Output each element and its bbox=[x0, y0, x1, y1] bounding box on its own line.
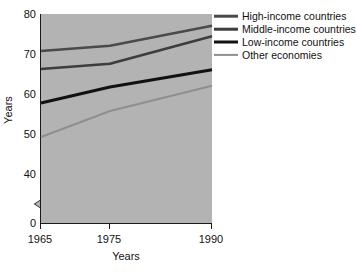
legend-line-3 bbox=[214, 54, 238, 56]
legend-line-0 bbox=[214, 15, 238, 18]
y-tick-label-50: 50 bbox=[24, 129, 36, 140]
legend-label-middle-income: Middle-income countries bbox=[238, 23, 356, 35]
legend-item-other-economies: Other economies bbox=[214, 49, 356, 61]
legend-swatch-high-income bbox=[214, 10, 238, 22]
legend-label-low-income: Low-income countries bbox=[238, 36, 344, 48]
legend-swatch-low-income bbox=[214, 36, 238, 48]
x-tick-mark-1965 bbox=[40, 224, 41, 229]
legend-swatch-middle-income bbox=[214, 23, 238, 35]
series-line-low-income-countries bbox=[41, 70, 212, 103]
plot-area bbox=[40, 14, 212, 224]
y-axis-title: Years bbox=[2, 80, 14, 140]
y-tick-label-70: 70 bbox=[24, 49, 36, 60]
legend: High-income countries Middle-income coun… bbox=[214, 10, 356, 62]
legend-item-middle-income: Middle-income countries bbox=[214, 23, 356, 35]
x-tick-mark-1990 bbox=[211, 224, 212, 229]
x-tick-label-1965: 1965 bbox=[19, 233, 61, 245]
series-line-middle-income-countries bbox=[41, 36, 212, 69]
x-tick-label-1975: 1975 bbox=[88, 233, 130, 245]
series-canvas bbox=[41, 14, 213, 224]
x-axis-title: Years bbox=[40, 250, 212, 262]
y-tick-label-40: 40 bbox=[24, 169, 36, 180]
legend-label-high-income: High-income countries bbox=[238, 10, 346, 22]
legend-line-2 bbox=[214, 41, 238, 44]
series-line-high-income-countries bbox=[41, 26, 212, 51]
series-line-other-economies bbox=[41, 86, 212, 137]
y-tick-label-60: 60 bbox=[24, 89, 36, 100]
x-tick-mark-1975 bbox=[109, 224, 110, 229]
x-tick-label-1990: 1990 bbox=[190, 233, 232, 245]
legend-item-low-income: Low-income countries bbox=[214, 36, 356, 48]
legend-label-other-economies: Other economies bbox=[238, 49, 322, 61]
chart-figure: 80 70 60 50 40 0 1965 1975 1990 Years Ye… bbox=[0, 0, 356, 273]
legend-item-high-income: High-income countries bbox=[214, 10, 356, 22]
y-tick-label-80: 80 bbox=[24, 9, 36, 20]
legend-line-1 bbox=[214, 28, 238, 31]
legend-swatch-other-economies bbox=[214, 49, 238, 61]
y-tick-label-0: 0 bbox=[30, 218, 36, 229]
